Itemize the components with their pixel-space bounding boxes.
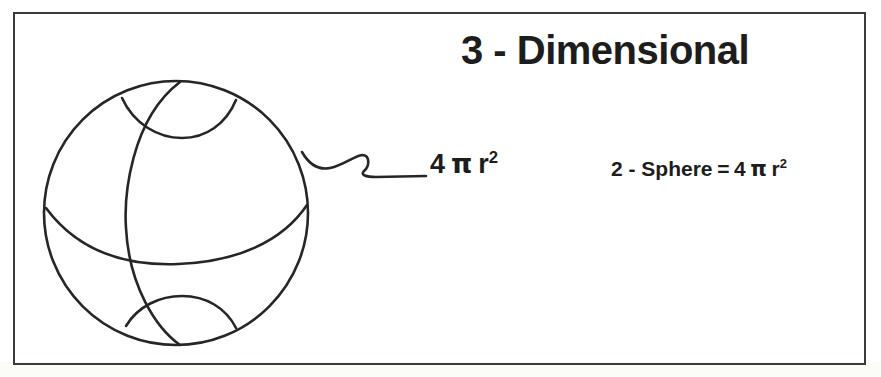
callout-exponent: 2: [489, 148, 498, 167]
meridian-curve: [126, 82, 180, 345]
pi-symbol: π: [750, 157, 767, 181]
page-title: 3 - Dimensional: [461, 30, 749, 70]
pi-symbol: π: [451, 148, 472, 179]
callout-coefficient: 4: [430, 149, 445, 179]
south-pole-arc: [126, 296, 236, 328]
equator-curve: [46, 205, 307, 264]
equation-radius-variable: r: [772, 157, 780, 180]
outer-circle: [44, 81, 308, 345]
equation-left-side: 2 - Sphere: [611, 157, 713, 180]
sphere-surface-area-equation: 2 - Sphere=4πr2: [611, 157, 787, 180]
squiggly-leader-line: [296, 146, 432, 192]
equation-exponent: 2: [780, 156, 787, 171]
north-pole-arc: [122, 98, 236, 138]
diagram-page: 3 - Dimensional 4πr2 2 - Sphere=4πr2: [0, 0, 881, 377]
sphere-wireframe-figure: [30, 68, 330, 360]
callout-radius-variable: r: [478, 149, 489, 179]
callout-label-area-formula: 4πr2: [430, 150, 498, 178]
equals-sign: =: [717, 157, 729, 180]
equation-coefficient: 4: [734, 157, 746, 180]
